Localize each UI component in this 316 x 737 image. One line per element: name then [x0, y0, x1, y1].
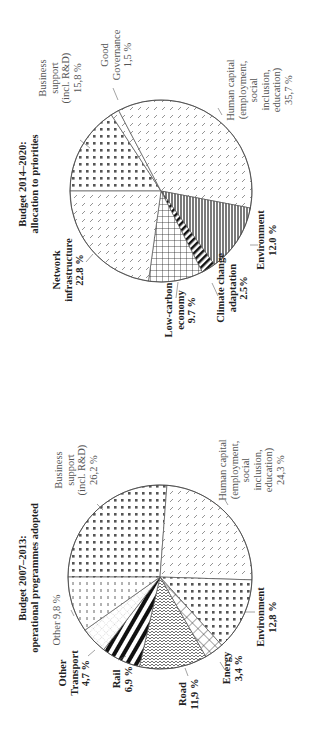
svg-text:infrastructure: infrastructure [63, 238, 74, 302]
slice-label-other: Other 9,8 % [51, 594, 74, 645]
svg-text:12.0 %: 12.0 % [267, 224, 278, 256]
svg-text:education): education) [271, 67, 283, 112]
leader-line [185, 668, 188, 676]
svg-text:Business: Business [53, 451, 64, 488]
leader-line [86, 254, 93, 262]
svg-text:Rail: Rail [111, 670, 122, 689]
pie-chart-2007-2013 [68, 485, 252, 669]
leader-line [218, 108, 222, 115]
svg-text:(incl. R&D): (incl. R&D) [76, 444, 88, 495]
svg-text:9.7 %: 9.7 % [186, 297, 197, 323]
svg-text:35,7 %: 35,7 % [283, 75, 294, 105]
chart-title-2014-2020-line2: allocation to priorities [29, 134, 40, 233]
svg-text:24,3 %: 24,3 % [275, 455, 286, 485]
svg-text:(employment,: (employment, [237, 61, 249, 120]
chart-canvas: Budget 2014–2020: allocation to prioriti… [0, 0, 316, 737]
svg-text:2.5%: 2.5% [238, 276, 249, 300]
leader-line [71, 610, 74, 616]
svg-text:Business: Business [37, 59, 48, 96]
slice-label-human-capital-employment-social-inclusion-education: Human capital(employment,socialinclusion… [218, 59, 294, 121]
svg-text:3,4 %: 3,4 % [233, 655, 244, 681]
svg-text:26,2 %: 26,2 % [88, 455, 99, 485]
svg-text:Good: Good [99, 43, 110, 67]
svg-text:(incl. R&D): (incl. R&D) [60, 52, 72, 103]
svg-text:inclusion,: inclusion, [252, 449, 263, 490]
svg-text:6,9 %: 6,9 % [123, 666, 134, 692]
slice-label-road: Road11,9 % [177, 668, 200, 709]
svg-text:Transport: Transport [69, 650, 80, 696]
slice-label-business-support-incl-r-d: Businesssupport(incl. R&D)15,8 % [37, 52, 90, 148]
svg-text:adaptation: adaptation [227, 264, 238, 313]
svg-text:1,5 %: 1,5 % [122, 43, 133, 68]
chart-title-2014-2020-line1: Budget 2014–2020: [17, 141, 28, 226]
svg-text:11,9 %: 11,9 % [189, 679, 200, 710]
svg-text:(employment,: (employment, [229, 441, 241, 500]
slice-label-good-governance: GoodGovernance1,5 % [99, 29, 133, 100]
svg-text:Network: Network [51, 250, 62, 289]
svg-text:support: support [65, 454, 76, 486]
chart-title-2007-2013-line1: Budget 2007–2013: [17, 535, 28, 620]
slice-label-low-carbon-economy: Low-carboneconomy9.7 % [163, 282, 197, 337]
svg-text:Environment: Environment [255, 210, 266, 270]
svg-text:15,8 %: 15,8 % [72, 63, 83, 93]
svg-text:Environment: Environment [255, 587, 266, 647]
svg-text:Human capital: Human capital [225, 59, 236, 121]
slice-label-energy: Energy3,4 % [220, 651, 244, 684]
svg-text:Low-carbon: Low-carbon [163, 282, 174, 337]
svg-text:22.8 %: 22.8 % [74, 254, 85, 286]
pie-slice-business-support-incl-r-d [68, 485, 167, 577]
svg-text:4,7 %: 4,7 % [80, 660, 91, 686]
svg-text:Governance: Governance [111, 29, 122, 80]
leader-line [113, 88, 118, 100]
svg-text:social: social [240, 458, 251, 483]
slice-label-human-capital-employment-social-inclusion-education: Human capital(employment,socialinclusion… [217, 439, 286, 505]
svg-text:Energy: Energy [221, 651, 232, 684]
svg-text:social: social [248, 78, 259, 103]
svg-text:12,8 %: 12,8 % [267, 601, 278, 633]
leader-line [88, 650, 95, 656]
chart-title-2007-2013-line2: operational programmes adopted [29, 503, 40, 653]
svg-text:education): education) [263, 447, 275, 492]
slice-label-environment: Environment12.0 % [250, 210, 278, 270]
svg-text:support: support [49, 62, 60, 94]
svg-text:Climate change: Climate change [215, 253, 226, 323]
svg-text:Other 9,8 %: Other 9,8 % [51, 594, 62, 645]
slice-label-business-support-incl-r-d: Businesssupport(incl. R&D)26,2 % [53, 444, 103, 510]
slice-label-other-transport: OtherTransport4,7 % [57, 650, 95, 696]
slice-label-climate-change-adaptation: Climate changeadaptation2.5% [212, 253, 249, 323]
svg-text:Other: Other [57, 659, 68, 686]
svg-text:Human capital: Human capital [217, 439, 228, 501]
slice-label-network-infrastructure: Networkinfrastructure22.8 % [51, 238, 93, 302]
svg-text:inclusion,: inclusion, [260, 69, 271, 110]
svg-text:Road: Road [177, 682, 188, 706]
